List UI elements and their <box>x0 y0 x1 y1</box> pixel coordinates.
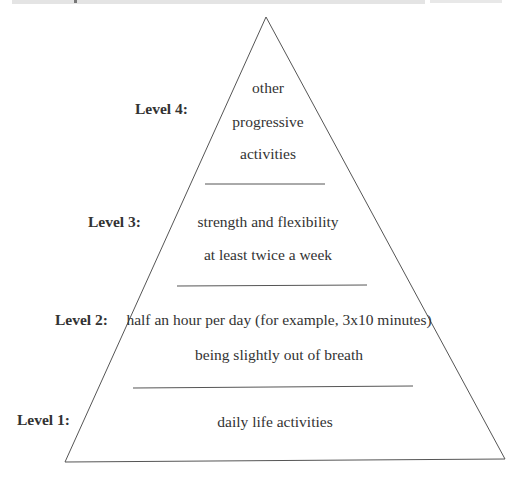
level-4-label: Level 4: <box>135 100 188 118</box>
pyramid-outline <box>65 17 505 462</box>
level-2-label: Level 2: <box>55 311 108 329</box>
divider-level-3-2 <box>177 285 367 286</box>
level-4-text-line-3: activities <box>240 145 296 163</box>
level-2-text-line-2: being slightly out of breath <box>195 346 363 364</box>
level-4-text-line-2: progressive <box>232 113 303 131</box>
divider-level-2-1 <box>133 386 413 388</box>
level-3-text-line-1: strength and flexibility <box>197 213 338 231</box>
level-3-text-line-2: at least twice a week <box>204 246 332 264</box>
level-4-text-line-1: other <box>252 79 284 97</box>
level-1-label: Level 1: <box>17 411 70 429</box>
level-2-text-line-1: half an hour per day (for example, 3x10 … <box>126 311 431 329</box>
level-3-label: Level 3: <box>88 213 141 231</box>
level-1-text-line-1: daily life activities <box>217 413 332 431</box>
pyramid-diagram <box>0 0 517 483</box>
